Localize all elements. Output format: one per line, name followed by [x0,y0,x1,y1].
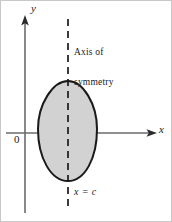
equation-label: x = c [74,187,97,198]
axis-of-symmetry-label: Axis of symmetry [74,28,114,108]
axis-of-symmetry-label-line2: symmetry [74,78,114,88]
x-axis-label: x [159,124,164,136]
figure-canvas: y x 0 Axis of symmetry x = c [0,0,172,222]
axis-of-symmetry-label-line1: Axis of [74,48,114,58]
y-axis [21,15,29,213]
origin-label: 0 [14,134,20,146]
y-axis-label: y [31,3,36,15]
